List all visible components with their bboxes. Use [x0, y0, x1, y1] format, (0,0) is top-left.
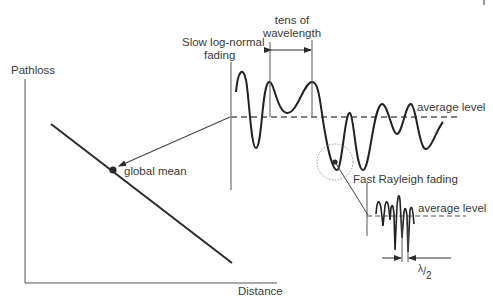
- x-axis-label: Distance: [238, 285, 283, 298]
- pathloss-line: [51, 124, 232, 263]
- tens-label-line2: wavelength: [260, 27, 324, 40]
- fast-fading-plot: [367, 183, 466, 262]
- half-denominator: 2: [426, 270, 432, 281]
- slow-fading-plot: [231, 40, 457, 190]
- slow-fading-label-line2: fading: [180, 49, 290, 62]
- y-axis-label: Pathloss: [11, 64, 55, 77]
- zoom-arrow-global: [119, 117, 230, 166]
- fast-average-level-label: average level: [418, 202, 486, 215]
- tens-label-line1: tens of: [260, 14, 324, 27]
- fast-fading-label: Fast Rayleigh fading: [353, 173, 458, 186]
- lambda-symbol: λ: [418, 263, 423, 274]
- tens-of-wavelength-label: tens of wavelength: [260, 14, 324, 40]
- slow-average-level-label: average level: [417, 101, 485, 114]
- global-mean-label: global mean: [124, 165, 187, 178]
- global-mean-dot: [109, 166, 116, 173]
- pathloss-axes: [25, 79, 277, 283]
- slow-fading-curve: [236, 72, 443, 170]
- half-wavelength-label: λ/2: [418, 265, 432, 278]
